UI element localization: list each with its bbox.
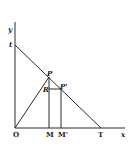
tangent-line-tT <box>15 45 101 128</box>
point-P-label: P <box>46 69 53 78</box>
origin-label: O <box>13 130 19 139</box>
point-t-label: t <box>9 40 13 49</box>
point-T-label: T <box>98 130 104 139</box>
point-P-prime-label: P' <box>59 82 67 91</box>
point-R-label: R <box>42 85 49 94</box>
point-M-label: M <box>46 130 54 139</box>
y-axis-label: y <box>7 25 13 34</box>
geometry-diagram: y t P P' R O M M' T x <box>0 0 130 149</box>
point-M-prime-label: M' <box>58 130 68 139</box>
x-axis-label: x <box>120 130 126 139</box>
